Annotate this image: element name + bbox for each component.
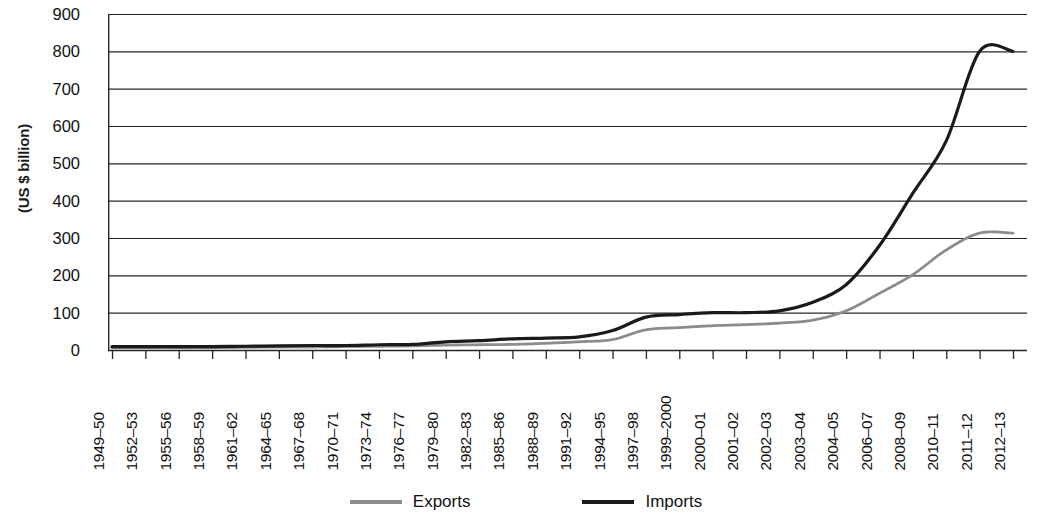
x-tick-label: 2001–02 [725, 412, 741, 470]
x-tick-label: 2004–05 [825, 412, 841, 470]
chart-legend: ExportsImports [0, 487, 1052, 517]
x-tick-label: 1952–53 [124, 412, 140, 470]
y-tick-label: 200 [34, 267, 80, 284]
x-tick-label: 2000–01 [691, 412, 707, 470]
legend-item-imports[interactable]: Imports [582, 492, 702, 512]
x-tick-label: 1949–50 [91, 412, 107, 470]
x-tick-label: 1979–80 [424, 412, 440, 470]
y-tick-label: 900 [34, 6, 80, 23]
x-tick-label: 1982–83 [458, 412, 474, 470]
chart-canvas [108, 14, 1027, 360]
legend-label: Imports [645, 492, 702, 512]
plot-area [108, 14, 1027, 350]
x-tick-label: 1967–68 [291, 412, 307, 470]
y-tick-label: 600 [34, 118, 80, 135]
x-tick-label: 2003–04 [791, 412, 807, 470]
x-tick-label: 1973–74 [357, 412, 373, 470]
exports-line-swatch [350, 500, 402, 504]
legend-label: Exports [413, 492, 471, 512]
x-tick-label: 1999–2000 [658, 395, 674, 470]
y-tick-label: 800 [34, 43, 80, 60]
y-tick-label: 700 [34, 81, 80, 98]
x-tick-label: 1955–56 [157, 412, 173, 470]
legend-item-exports[interactable]: Exports [350, 492, 471, 512]
y-tick-label: 500 [34, 155, 80, 172]
x-tick-label: 1964–65 [257, 412, 273, 470]
x-tick-label: 1976–77 [391, 412, 407, 470]
y-tick-label: 300 [34, 230, 80, 247]
x-tick-label: 2011–12 [958, 413, 974, 470]
x-tick-label: 1970–71 [324, 412, 340, 470]
x-tick-label: 2002–03 [758, 412, 774, 470]
y-axis-tick-labels: 0100200300400500600700800900 [28, 0, 80, 360]
y-tick-label: 100 [34, 305, 80, 322]
series-line-imports [112, 45, 1013, 347]
x-tick-label: 1961–62 [224, 412, 240, 470]
x-tick-label: 1994–95 [591, 412, 607, 470]
x-tick-label: 1958–59 [191, 412, 207, 470]
line-chart: (US $ billion) 0100200300400500600700800… [0, 0, 1052, 531]
imports-line-swatch [582, 500, 634, 504]
x-tick-label: 1985–86 [491, 412, 507, 470]
x-tick-label: 2012–13 [992, 412, 1008, 470]
x-tick-label: 2006–07 [858, 412, 874, 470]
y-tick-label: 400 [34, 193, 80, 210]
x-tick-label: 2010–11 [925, 413, 941, 470]
x-tick-label: 1991–92 [558, 412, 574, 470]
x-tick-label: 1988–89 [524, 412, 540, 470]
x-tick-label: 1997–98 [624, 412, 640, 470]
gridlines [108, 15, 1027, 351]
x-axis-tick-labels: 1949–501952–531955–561958–591961–621964–… [0, 356, 1052, 476]
x-tick-label: 2008–09 [891, 412, 907, 470]
